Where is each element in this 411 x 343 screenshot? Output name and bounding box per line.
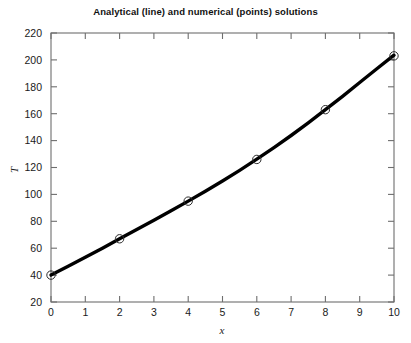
plot-frame (51, 33, 394, 302)
x-tick-label: 10 (388, 306, 400, 318)
y-tick-label: 140 (24, 134, 42, 146)
x-tick-label: 0 (48, 306, 54, 318)
y-axis-label: T (8, 166, 20, 173)
y-tick-label: 160 (24, 108, 42, 120)
x-tick-label: 1 (82, 306, 88, 318)
series-numerical-points (47, 52, 398, 280)
series-analytical-line (51, 55, 394, 275)
y-tick-label: 180 (24, 81, 42, 93)
y-tick-label: 100 (24, 188, 42, 200)
x-tick-label: 9 (357, 306, 363, 318)
y-tick-label: 80 (30, 215, 42, 227)
x-tick-label: 6 (254, 306, 260, 318)
x-axis-label: x (219, 324, 225, 336)
figure-canvas: Analytical (line) and numerical (points)… (0, 0, 411, 343)
y-tick-label: 60 (30, 242, 42, 254)
x-tick-label: 7 (288, 306, 294, 318)
y-tick-label: 220 (24, 27, 42, 39)
x-tick-label: 2 (117, 306, 123, 318)
x-tick-label: 8 (322, 306, 328, 318)
y-tick-label: 120 (24, 161, 42, 173)
y-axis-ticks: 20406080100120140160180200220 (24, 27, 394, 308)
x-tick-label: 4 (185, 306, 191, 318)
chart-plot-area: 20406080100120140160180200220 0123456789… (0, 0, 411, 343)
y-tick-label: 20 (30, 296, 42, 308)
y-tick-label: 40 (30, 269, 42, 281)
y-tick-label: 200 (24, 54, 42, 66)
x-axis-ticks: 012345678910 (48, 33, 400, 318)
x-tick-label: 5 (220, 306, 226, 318)
x-tick-label: 3 (151, 306, 157, 318)
